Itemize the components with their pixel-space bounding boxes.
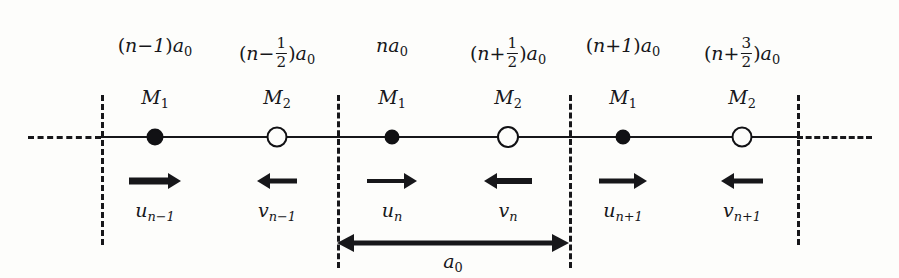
mass-label-m2-cell1: M2 xyxy=(263,88,291,111)
disp-v-n-plus-1-label: vn+1 xyxy=(723,201,761,224)
lattice-constant-symbol: a xyxy=(388,34,399,56)
displacement-subscript: n xyxy=(394,209,402,224)
position-expression: n+ xyxy=(711,42,739,64)
lattice-constant-symbol: a xyxy=(527,42,538,64)
fraction: 32 xyxy=(740,36,752,70)
disp-u-n-arrow xyxy=(367,168,417,194)
lattice-constant-subscript: 0 xyxy=(307,52,315,67)
mass-label-m2-cell3: M2 xyxy=(728,88,756,111)
chain-continuation-right xyxy=(797,136,872,139)
lattice-constant-symbol: a xyxy=(173,34,184,56)
disp-u-n-plus-1-arrow xyxy=(599,168,647,194)
mass-subscript: 1 xyxy=(398,96,406,111)
disp-v-n-arrow xyxy=(484,168,532,194)
mass-symbol: M xyxy=(378,86,397,108)
lattice-constant-subscript: 0 xyxy=(400,44,408,59)
position-expression: n xyxy=(376,34,388,56)
pos-n-minus-1: (n−1)a0 xyxy=(118,36,193,59)
position-expression: n−1 xyxy=(125,34,165,56)
position-expression: n+1 xyxy=(593,34,633,56)
mass-subscript: 2 xyxy=(748,96,756,111)
displacement-subscript: n+1 xyxy=(615,209,642,224)
fraction-numerator: 3 xyxy=(740,36,752,52)
paren-close: ) xyxy=(165,34,172,56)
displacement-symbol: u xyxy=(603,199,615,221)
position-expression: n− xyxy=(246,42,274,64)
atom-m1-cell2 xyxy=(385,130,400,145)
diatomic-lattice-diagram: (n−1)a0(n−12)a0na0(n+12)a0(n+1)a0(n+32)a… xyxy=(0,0,899,278)
paren-close: ) xyxy=(288,42,295,64)
mass-symbol: M xyxy=(494,86,513,108)
atom-m2-cell3 xyxy=(732,127,753,148)
lattice-constant-subscript: 0 xyxy=(538,52,546,67)
mass-symbol: M xyxy=(609,86,628,108)
disp-u-n-label: un xyxy=(382,201,403,224)
lattice-constant-subscript: 0 xyxy=(652,44,660,59)
atom-m2-cell1 xyxy=(267,127,288,148)
displacement-subscript: n+1 xyxy=(734,209,761,224)
disp-v-n-minus-1-arrow xyxy=(257,168,297,194)
paren-close: ) xyxy=(633,34,640,56)
displacement-subscript: n−1 xyxy=(147,209,174,224)
displacement-symbol: u xyxy=(135,199,147,221)
lattice-constant-symbol: a xyxy=(641,34,652,56)
mass-subscript: 2 xyxy=(283,96,291,111)
paren-close: ) xyxy=(753,42,760,64)
mass-subscript: 1 xyxy=(629,96,637,111)
displacement-symbol: u xyxy=(382,199,394,221)
lattice-constant-symbol: a xyxy=(761,42,772,64)
mass-label-m1-cell1: M1 xyxy=(141,88,169,111)
pos-n-plus-half: (n+12)a0 xyxy=(470,36,546,70)
displacement-symbol: v xyxy=(258,199,269,221)
disp-u-n-minus-1-arrow xyxy=(129,168,181,194)
pos-n-plus-3-halves: (n+32)a0 xyxy=(704,36,780,70)
mass-symbol: M xyxy=(263,86,282,108)
displacement-symbol: v xyxy=(723,199,734,221)
lattice-constant-label: a0 xyxy=(443,252,463,275)
divider-cell2-end xyxy=(569,95,572,268)
displacement-subscript: n xyxy=(509,209,517,224)
pos-n-minus-half: (n−12)a0 xyxy=(239,36,315,70)
mass-label-m1-cell2: M1 xyxy=(378,88,406,111)
lattice-constant-subscript: 0 xyxy=(184,44,192,59)
paren-close: ) xyxy=(519,42,526,64)
lattice-constant-symbol: a xyxy=(443,250,454,272)
disp-u-n-minus-1-label: un−1 xyxy=(135,201,175,224)
pos-n-plus-1: (n+1)a0 xyxy=(586,36,661,59)
lattice-constant-subscript: 0 xyxy=(772,52,780,67)
mass-symbol: M xyxy=(141,86,160,108)
displacement-symbol: v xyxy=(498,199,509,221)
disp-v-n-plus-1-arrow xyxy=(721,168,763,194)
fraction: 12 xyxy=(506,36,518,70)
mass-symbol: M xyxy=(728,86,747,108)
disp-v-n-minus-1-label: vn−1 xyxy=(258,201,296,224)
fraction-numerator: 1 xyxy=(506,36,518,52)
disp-u-n-plus-1-label: un+1 xyxy=(603,201,643,224)
pos-n: na0 xyxy=(376,36,408,59)
fraction-numerator: 1 xyxy=(275,36,287,52)
fraction-denominator: 2 xyxy=(506,55,518,71)
fraction: 12 xyxy=(275,36,287,70)
fraction-denominator: 2 xyxy=(740,55,752,71)
mass-subscript: 2 xyxy=(514,96,522,111)
divider-left xyxy=(101,95,104,245)
lattice-constant-subscript: 0 xyxy=(455,260,463,275)
fraction-denominator: 2 xyxy=(275,55,287,71)
position-expression: n+ xyxy=(477,42,505,64)
atom-m2-cell2 xyxy=(497,126,519,148)
mass-label-m2-cell2: M2 xyxy=(494,88,522,111)
atom-m1-cell1 xyxy=(147,129,164,146)
chain-continuation-left xyxy=(28,136,101,139)
disp-v-n-label: vn xyxy=(498,201,517,224)
lattice-constant-symbol: a xyxy=(296,42,307,64)
lattice-chain-line xyxy=(101,136,797,138)
atom-m1-cell3 xyxy=(616,130,631,145)
mass-subscript: 1 xyxy=(161,96,169,111)
divider-right xyxy=(797,95,800,245)
displacement-subscript: n−1 xyxy=(269,209,296,224)
mass-label-m1-cell3: M1 xyxy=(609,88,637,111)
